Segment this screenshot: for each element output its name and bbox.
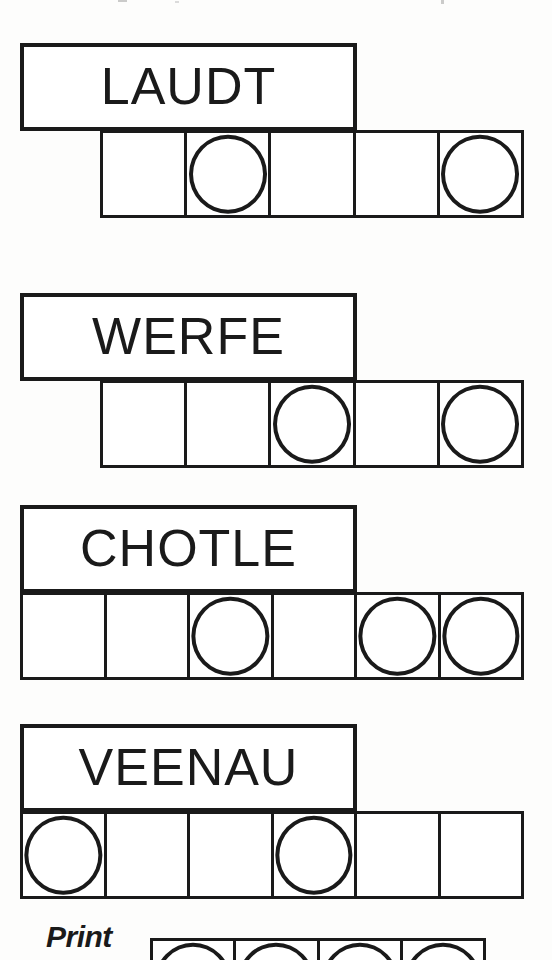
word-box-2: WERFE: [20, 293, 357, 381]
scan-artifact: [441, 0, 444, 4]
word-box-3: CHOTLE: [20, 505, 357, 593]
print-label: Print: [46, 922, 112, 952]
letter-cell[interactable]: [236, 941, 319, 960]
letter-cell[interactable]: [103, 133, 187, 215]
circle-marker-icon: [321, 943, 398, 960]
letter-cell[interactable]: [187, 133, 271, 215]
letter-cell[interactable]: [23, 595, 107, 677]
letter-cell[interactable]: [190, 595, 274, 677]
circle-marker-icon: [25, 816, 102, 895]
letter-cell[interactable]: [271, 383, 355, 465]
circle-marker-icon: [359, 597, 436, 676]
letter-grid-1[interactable]: [100, 130, 524, 218]
letter-cell[interactable]: [107, 814, 191, 896]
word-text-2: WERFE: [92, 310, 285, 362]
circle-marker-icon: [441, 385, 519, 464]
circle-marker-icon: [189, 135, 267, 214]
letter-cell[interactable]: [274, 595, 358, 677]
letter-cell[interactable]: [320, 941, 403, 960]
letter-cell[interactable]: [23, 814, 107, 896]
letter-cell[interactable]: [356, 133, 440, 215]
letter-cell[interactable]: [271, 133, 355, 215]
letter-cell[interactable]: [103, 383, 187, 465]
letter-cell[interactable]: [153, 941, 236, 960]
letter-cell[interactable]: [403, 941, 483, 960]
scan-artifact: [175, 1, 179, 3]
letter-cell[interactable]: [441, 595, 522, 677]
circle-marker-icon: [275, 816, 352, 895]
letter-cell[interactable]: [441, 814, 522, 896]
letter-cell[interactable]: [357, 595, 441, 677]
letter-grid-4[interactable]: [20, 811, 524, 899]
word-box-1: LAUDT: [20, 43, 357, 131]
word-text-3: CHOTLE: [80, 522, 297, 574]
circle-marker-icon: [155, 943, 232, 960]
worksheet-page: LAUDT WERFE CHOTLE VEENAU: [0, 0, 552, 960]
word-text-4: VEENAU: [79, 741, 299, 793]
letter-cell[interactable]: [107, 595, 191, 677]
circle-marker-icon: [404, 943, 481, 960]
letter-cell[interactable]: [357, 814, 441, 896]
letter-cell[interactable]: [356, 383, 440, 465]
letter-cell[interactable]: [274, 814, 358, 896]
letter-grid-3[interactable]: [20, 592, 524, 680]
letter-grid-print[interactable]: [150, 938, 486, 960]
letter-cell[interactable]: [440, 133, 521, 215]
circle-marker-icon: [192, 597, 269, 676]
letter-cell[interactable]: [187, 383, 271, 465]
letter-grid-2[interactable]: [100, 380, 524, 468]
circle-marker-icon: [273, 385, 351, 464]
circle-marker-icon: [441, 135, 519, 214]
scan-artifact: [118, 0, 127, 2]
letter-cell[interactable]: [440, 383, 521, 465]
circle-marker-icon: [238, 943, 315, 960]
circle-marker-icon: [442, 597, 519, 676]
word-text-1: LAUDT: [101, 60, 276, 112]
word-box-4: VEENAU: [20, 724, 357, 812]
letter-cell[interactable]: [190, 814, 274, 896]
